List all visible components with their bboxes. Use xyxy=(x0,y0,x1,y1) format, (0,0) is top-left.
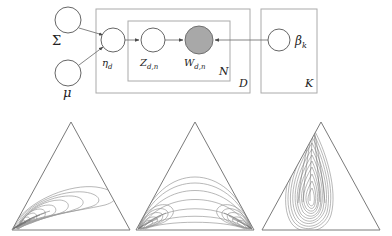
node-z-dn xyxy=(141,28,165,52)
label-sigma: Σ xyxy=(52,33,61,48)
svg-text:βk: βk xyxy=(294,34,307,50)
label-eta-d: ηd xyxy=(102,57,113,71)
simplex-plot-left xyxy=(12,122,130,230)
node-w-dn xyxy=(185,26,213,54)
label-beta-base: β xyxy=(294,34,302,48)
label-w-dn: Wd,n xyxy=(184,57,206,71)
node-eta-d xyxy=(101,28,125,52)
simplex-triangle xyxy=(136,122,254,230)
label-eta-sub: d xyxy=(108,63,113,71)
label-z-dn: Zd,n xyxy=(139,57,159,71)
label-beta-k: βk xyxy=(294,34,307,50)
figure-canvas: Σ μ ηd Zd,n Wd,n βk N D K xyxy=(0,0,392,236)
plate-label-K: K xyxy=(304,77,314,90)
contour-line xyxy=(145,222,245,229)
plate-label-D: D xyxy=(238,77,248,90)
plate-N xyxy=(128,21,230,81)
label-mu: μ xyxy=(63,85,71,100)
simplex-plot-right xyxy=(262,122,380,231)
contour-line xyxy=(139,177,251,228)
contour-line xyxy=(303,124,313,202)
svg-text:Zd,n: Zd,n xyxy=(139,57,159,71)
label-beta-sub: k xyxy=(302,41,307,50)
plate-diagram: Σ μ ηd Zd,n Wd,n βk N D K xyxy=(52,7,317,100)
svg-text:Wd,n: Wd,n xyxy=(184,57,206,71)
svg-text:ηd: ηd xyxy=(102,57,113,71)
plate-D xyxy=(96,9,250,93)
node-mu xyxy=(55,60,81,86)
plate-label-N: N xyxy=(218,65,229,78)
label-w-sub: d,n xyxy=(194,63,206,71)
node-beta-k xyxy=(268,29,290,51)
label-z-sub: d,n xyxy=(147,63,159,71)
edge-sigma-to-eta xyxy=(79,28,103,35)
contour-line xyxy=(142,209,248,229)
simplex-plot-middle xyxy=(136,122,254,230)
contour-line xyxy=(308,188,314,206)
edge-mu-to-eta xyxy=(79,47,103,65)
node-sigma xyxy=(55,7,81,33)
